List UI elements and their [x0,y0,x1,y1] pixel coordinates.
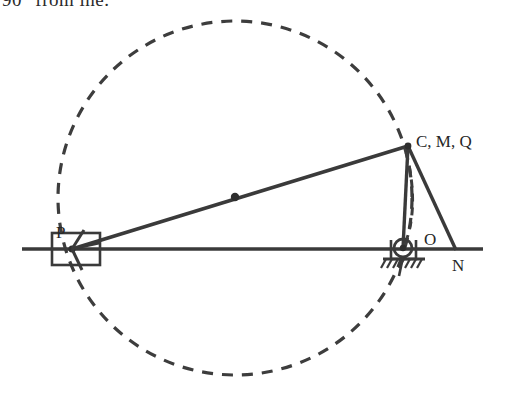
label-c-m-q: C, M, Q [416,132,472,151]
joint-c-dot [405,143,412,150]
label-p: P [56,223,65,242]
link-c-to-o [403,146,408,248]
mechanism-diagram: P C, M, Q O N [0,0,505,394]
link-p-to-c [72,146,408,249]
label-n: N [452,256,464,275]
midpoint-dot [231,193,239,201]
figure-page: 90° from lhe. [0,0,505,394]
pivot-center-dot [400,245,406,251]
label-o: O [424,230,436,249]
